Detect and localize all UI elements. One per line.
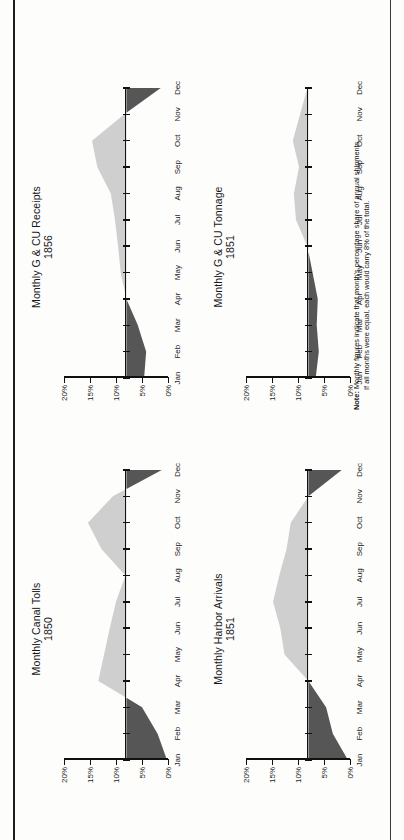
y-tick-label-3-4: 20%	[242, 385, 251, 401]
y-tick-0-1	[142, 759, 143, 765]
y-tick-label-3-1: 5%	[320, 385, 329, 397]
scanned-page: Monthly Canal Tolls 1850 0%5%10%15%20%Ja…	[0, 0, 404, 840]
x-tick-2-11	[305, 469, 312, 470]
chart-subtitle-3: 1851	[224, 72, 236, 422]
x-tick-0-0	[123, 759, 130, 760]
area-below-baseline	[308, 251, 318, 378]
x-tick-2-5	[305, 628, 312, 629]
x-tick-label-0-1: Feb	[173, 727, 182, 741]
x-axis-baseline-1	[125, 88, 127, 378]
y-tick-1-2	[116, 377, 117, 383]
x-tick-label-2-2: Mar	[355, 700, 364, 714]
x-tick-0-6	[123, 601, 130, 602]
x-tick-label-1-7: Aug	[173, 186, 182, 200]
y-tick-2-0	[350, 759, 351, 765]
x-tick-1-10	[123, 114, 130, 115]
y-tick-label-2-0: 0%	[346, 767, 355, 779]
x-axis-baseline-3	[307, 88, 309, 378]
chart-title-text-0: Monthly Canal Tolls	[30, 583, 42, 676]
y-tick-label-0-0: 0%	[164, 767, 173, 779]
x-tick-2-4	[305, 654, 312, 655]
x-tick-label-0-5: Jun	[173, 622, 182, 635]
x-tick-label-0-11: Dec	[173, 463, 182, 477]
x-tick-label-2-4: May	[355, 647, 364, 662]
y-tick-label-1-1: 5%	[138, 385, 147, 397]
x-tick-0-9	[123, 522, 130, 523]
y-tick-2-3	[272, 759, 273, 765]
x-tick-3-1	[305, 351, 312, 352]
y-tick-3-4	[246, 377, 247, 383]
area-series-3	[246, 88, 350, 378]
x-tick-0-3	[123, 680, 130, 681]
chart-title-text-1: Monthly G & CU Receipts	[30, 186, 42, 308]
x-tick-label-0-10: Nov	[173, 489, 182, 503]
x-tick-3-2	[305, 325, 312, 326]
x-tick-label-0-6: Jul	[173, 597, 182, 607]
x-tick-1-7	[123, 193, 130, 194]
x-tick-0-11	[123, 469, 130, 470]
y-tick-1-4	[64, 377, 65, 383]
plot-area-0: 0%5%10%15%20%JanFebMarAprMayJunJulAugSep…	[64, 470, 168, 760]
x-tick-label-2-8: Sep	[355, 542, 364, 556]
x-tick-label-2-9: Oct	[355, 517, 364, 529]
x-axis-baseline-0	[125, 470, 127, 760]
x-tick-label-0-7: Aug	[173, 568, 182, 582]
area-above-baseline	[273, 496, 308, 681]
page-rule-bottom	[390, 0, 391, 840]
x-tick-1-4	[123, 272, 130, 273]
plot-area-2: 0%5%10%15%20%JanFebMarAprMayJunJulAugSep…	[246, 470, 350, 760]
y-tick-label-0-2: 10%	[112, 767, 121, 783]
page-rule-top	[13, 0, 15, 840]
x-tick-1-8	[123, 166, 130, 167]
y-tick-0-3	[90, 759, 91, 765]
x-tick-2-10	[305, 496, 312, 497]
x-tick-label-1-8: Sep	[173, 160, 182, 174]
note-line-2: If all months were equal, each would car…	[362, 20, 372, 410]
x-tick-3-8	[305, 166, 312, 167]
plot-area-3: 0%5%10%15%20%JanFebMarAprMayJunJulAugSep…	[246, 88, 350, 378]
area-below-baseline	[126, 698, 167, 760]
x-tick-0-10	[123, 496, 130, 497]
x-tick-label-2-1: Feb	[355, 727, 364, 741]
x-tick-1-11	[123, 87, 130, 88]
x-tick-3-5	[305, 246, 312, 247]
note-line-1: Monthly figures indicate that month's pe…	[352, 139, 361, 389]
y-tick-1-0	[168, 377, 169, 383]
x-tick-0-2	[123, 707, 130, 708]
chart-subtitle-2: 1851	[224, 454, 236, 804]
x-tick-label-2-11: Dec	[355, 463, 364, 477]
y-tick-0-0	[168, 759, 169, 765]
x-tick-3-0	[305, 377, 312, 378]
y-tick-label-0-1: 5%	[138, 767, 147, 779]
x-tick-label-1-11: Dec	[173, 81, 182, 95]
y-tick-label-1-3: 15%	[86, 385, 95, 401]
x-tick-1-2	[123, 325, 130, 326]
plot-area-1: 0%5%10%15%20%JanFebMarAprMayJunJulAugSep…	[64, 88, 168, 378]
chart-panel-harbor-arrivals: Monthly Harbor Arrivals 1851 0%5%10%15%2…	[212, 454, 380, 804]
chart-title-2: Monthly Harbor Arrivals 1851	[212, 454, 236, 804]
y-tick-2-1	[324, 759, 325, 765]
x-tick-label-2-0: Jan	[355, 754, 364, 767]
y-tick-3-1	[324, 377, 325, 383]
x-tick-label-2-5: Jun	[355, 622, 364, 635]
chart-subtitle-0: 1850	[42, 454, 54, 804]
y-tick-2-2	[298, 759, 299, 765]
chart-panel-canal-tolls: Monthly Canal Tolls 1850 0%5%10%15%20%Ja…	[30, 454, 198, 804]
area-above-baseline	[88, 489, 126, 698]
y-tick-label-3-2: 10%	[294, 385, 303, 401]
x-tick-1-5	[123, 246, 130, 247]
y-tick-label-0-4: 20%	[60, 767, 69, 783]
x-tick-0-8	[123, 548, 130, 549]
x-tick-label-0-0: Jan	[173, 754, 182, 767]
y-tick-label-2-4: 20%	[242, 767, 251, 783]
y-tick-label-3-3: 15%	[268, 385, 277, 401]
area-below-baseline	[308, 681, 348, 760]
chart-title-3: Monthly G & CU Tonnage 1851	[212, 72, 236, 422]
x-tick-label-1-4: May	[173, 265, 182, 280]
x-tick-0-4	[123, 654, 130, 655]
y-tick-0-2	[116, 759, 117, 765]
x-tick-label-0-4: May	[173, 647, 182, 662]
y-tick-label-2-1: 5%	[320, 767, 329, 779]
x-tick-label-1-0: Jan	[173, 372, 182, 385]
area-below-baseline	[308, 470, 341, 496]
